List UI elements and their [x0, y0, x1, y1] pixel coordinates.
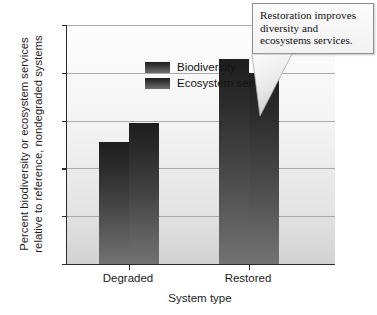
- bar-degraded-ecosystem-services: [129, 123, 159, 264]
- y-tick-mark-40: [62, 168, 67, 169]
- y-tick-mark-100: [62, 25, 67, 26]
- callout-pointer-fold-icon: [252, 54, 314, 120]
- x-tick-label-degraded: Degraded: [103, 272, 154, 284]
- bar-degraded-biodiversity: [99, 142, 129, 264]
- y-tick-mark-20: [62, 216, 67, 217]
- x-tick-label-restored: Restored: [225, 272, 272, 284]
- bar-chart-figure: 100 80 60 40 20 0 Percent biodiversity o…: [0, 0, 377, 315]
- y-tick-mark-80: [62, 73, 67, 74]
- y-tick-mark-0: [62, 264, 67, 265]
- y-tick-mark-60: [62, 121, 67, 122]
- restoration-callout: Restoration improves diversity and ecosy…: [252, 3, 374, 54]
- x-tick-mark-degraded: [129, 264, 130, 270]
- x-tick-mark-restored: [249, 264, 250, 270]
- legend-swatch-icon-biodiversity: [145, 62, 170, 73]
- x-axis-title: System type: [168, 292, 231, 304]
- callout-text: Restoration improves diversity and ecosy…: [260, 9, 367, 47]
- y-axis-title: Percent biodiversity or ecosystem servic…: [18, 19, 45, 269]
- legend-label-biodiversity: Biodiversity: [177, 61, 236, 73]
- legend-swatch-icon-ecosystem-services: [145, 78, 170, 89]
- gridline-60: [67, 121, 335, 122]
- bar-restored-biodiversity: [219, 59, 249, 265]
- callout-box: Restoration improves diversity and ecosy…: [252, 3, 374, 54]
